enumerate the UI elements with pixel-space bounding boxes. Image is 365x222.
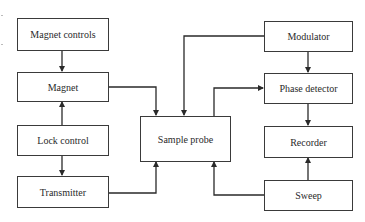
edge-modulator-to-sample-probe bbox=[184, 36, 264, 115]
block-label: Magnet bbox=[48, 82, 79, 93]
block-label: Modulator bbox=[287, 31, 329, 42]
block-sample-probe: Sample probe bbox=[140, 116, 231, 162]
edge-transmitter-to-sample-probe bbox=[108, 162, 156, 193]
block-label: Sample probe bbox=[158, 134, 213, 145]
edge-sweep-to-sample-probe bbox=[214, 162, 264, 195]
edge-sample-probe-to-phase-detector bbox=[214, 88, 263, 116]
block-recorder: Recorder bbox=[264, 126, 353, 158]
block-label: Sweep bbox=[295, 190, 322, 201]
block-label: Recorder bbox=[290, 137, 327, 148]
block-transmitter: Transmitter bbox=[17, 176, 109, 208]
block-label: Lock control bbox=[37, 135, 88, 146]
block-sweep: Sweep bbox=[264, 180, 353, 211]
edge-magnet-to-sample-probe bbox=[108, 87, 156, 115]
block-label: Phase detector bbox=[279, 83, 337, 94]
block-phase-detector: Phase detector bbox=[264, 73, 353, 104]
block-modulator: Modulator bbox=[264, 21, 353, 52]
margin-mark bbox=[1, 15, 3, 16]
margin-mark bbox=[1, 44, 3, 45]
block-lock-control: Lock control bbox=[17, 125, 109, 156]
block-magnet: Magnet bbox=[17, 72, 109, 102]
block-magnet-controls: Magnet controls bbox=[17, 18, 109, 51]
block-label: Magnet controls bbox=[30, 29, 95, 40]
block-label: Transmitter bbox=[40, 187, 86, 198]
